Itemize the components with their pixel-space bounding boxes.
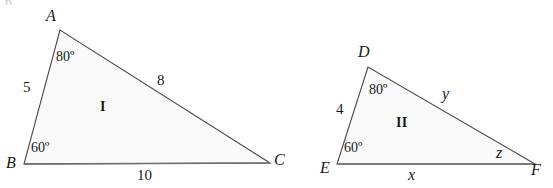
vertex-label-b: B: [6, 155, 16, 171]
angle-label-d: 80º: [369, 83, 387, 97]
region-label-1: I: [100, 100, 106, 114]
vertex-label-e: E: [320, 160, 330, 176]
vertex-label-a: A: [46, 8, 56, 24]
angle-label-e: 60º: [344, 141, 362, 155]
angle-label-f-z: z: [496, 145, 502, 161]
side-length-ef-x: x: [408, 167, 415, 183]
side-length-ac: 8: [157, 73, 165, 88]
side-length-de: 4: [336, 102, 344, 117]
vertex-label-d: D: [358, 44, 370, 60]
side-length-bc: 10: [137, 168, 152, 183]
triangle-2-shape: [337, 67, 535, 164]
angle-label-a: 80º: [56, 50, 74, 64]
triangle-1-baseline: [24, 163, 270, 164]
geometry-figure: p . A B C 80º 60º 5 8 10 I D E F 80º 60º…: [0, 0, 553, 188]
vertex-label-f: F: [531, 162, 541, 178]
side-length-df-y: y: [442, 86, 449, 102]
angle-label-b: 60º: [31, 141, 49, 155]
region-label-2: II: [396, 116, 408, 130]
vertex-label-c: C: [274, 152, 285, 168]
side-length-ab: 5: [23, 80, 31, 95]
